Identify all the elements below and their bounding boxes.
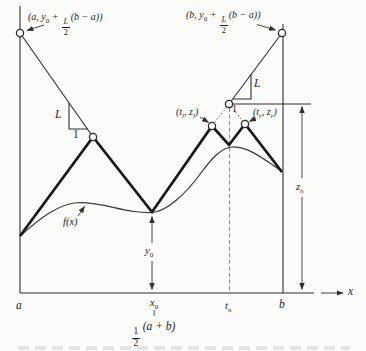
label-subscript: n xyxy=(300,187,304,195)
label-upper-left-point: (a, y0 + L2(b − a)) xyxy=(28,11,103,37)
label-slope-L-left: L xyxy=(55,108,61,121)
fraction-numerator: L xyxy=(220,15,228,26)
bound-point-b-circle xyxy=(278,29,285,36)
tl-label-arrow xyxy=(200,117,209,123)
label-part: ) xyxy=(195,106,198,117)
fraction-denominator: 2 xyxy=(222,26,226,35)
label-fx: f(x) xyxy=(63,216,78,228)
axis-label-tn: tn xyxy=(225,300,231,312)
label-subscript: 0 xyxy=(150,251,154,259)
diagram-geometry xyxy=(0,0,366,351)
label-y0-dimension: y0 xyxy=(145,245,153,257)
label-subscript: 0 xyxy=(155,303,159,311)
bound-point-a-circle xyxy=(16,29,23,36)
axis-label-x: x xyxy=(348,285,353,298)
lipschitz-line-right xyxy=(229,33,282,104)
fraction-numerator: L xyxy=(62,17,70,28)
fraction: L2 xyxy=(62,17,70,37)
axis-label-x0-value: 12(a + b) xyxy=(131,320,175,349)
figure-canvas: (a, y0 + L2(b − a)) (b, y0 + L2(b − a)) … xyxy=(0,0,366,351)
label-part: ) xyxy=(273,106,276,117)
label-upper-right-point: (b, y0 + L2(b − a)) xyxy=(186,9,261,35)
dotted-connector-left xyxy=(214,108,227,124)
fraction-numerator: 1 xyxy=(132,327,140,339)
function-curve xyxy=(20,147,282,236)
left-peak-circle xyxy=(89,133,96,140)
label-part: + xyxy=(49,11,61,22)
label-slope-1-left: 1 xyxy=(73,128,79,141)
fraction: L2 xyxy=(220,15,228,35)
label-part: (a, y xyxy=(28,11,46,22)
label-part: , z xyxy=(184,106,193,117)
axis-label-b: b xyxy=(279,298,285,311)
label-tr-candidate: (tr, zr) xyxy=(253,106,277,117)
axis-equals-mark: ‖ xyxy=(153,310,154,319)
label-subscript: n xyxy=(228,306,232,314)
fx-label-arrow xyxy=(78,207,85,217)
tl-candidate-circle xyxy=(208,122,215,129)
tr-label-arrow xyxy=(250,118,257,122)
upper-envelope-polyline xyxy=(20,124,282,236)
label-tl-candidate: (tl, zl) xyxy=(176,106,198,117)
cut-off-caption-fragment xyxy=(18,346,350,350)
label-slope-L-right: L xyxy=(254,77,260,90)
label-slope-1-right: 1 xyxy=(232,103,237,114)
lipschitz-line-left xyxy=(20,33,93,137)
label-part: (b, y xyxy=(186,9,204,20)
label-part: + xyxy=(207,9,219,20)
fraction-denominator: 2 xyxy=(64,28,68,37)
label-part: , z xyxy=(262,106,271,117)
axis-label-x0: x0 xyxy=(150,297,158,309)
label-part: (b − a)) xyxy=(71,11,103,22)
label-part: (b − a)) xyxy=(229,9,261,20)
label-zn-dimension: zn xyxy=(296,181,304,193)
tr-candidate-circle xyxy=(241,120,248,127)
axis-label-a: a xyxy=(16,299,22,312)
label-part: (a + b) xyxy=(143,320,176,332)
